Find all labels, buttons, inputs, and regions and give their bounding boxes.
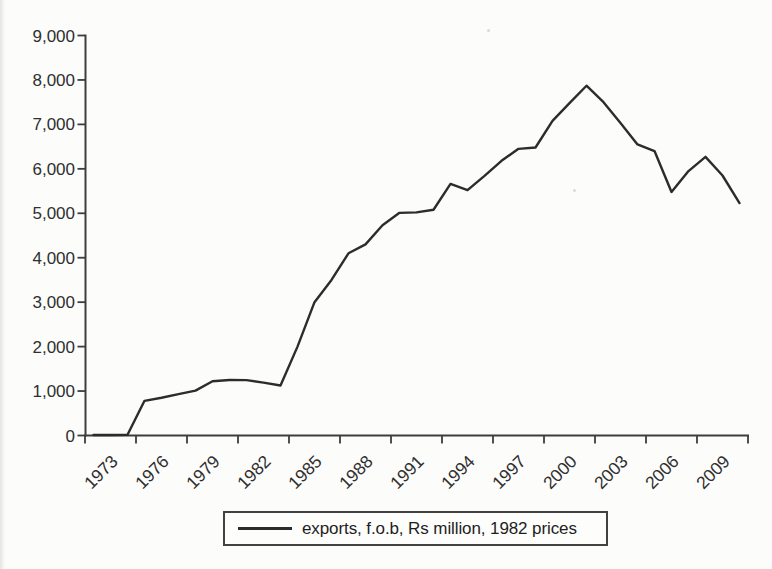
x-tick-label: 1994 [437, 451, 479, 493]
y-tick-label: 5,000 [32, 204, 75, 223]
x-tick-label: 1979 [182, 451, 224, 493]
exports-line-chart: 01,0002,0003,0004,0005,0006,0007,0008,00… [0, 0, 772, 569]
y-tick-label: 2,000 [32, 338, 75, 357]
y-tick-label: 9,000 [32, 27, 75, 46]
y-tick-label: 7,000 [32, 115, 75, 134]
x-tick-label: 1991 [386, 451, 428, 493]
x-tick-label: 1976 [131, 451, 173, 493]
x-tick-label: 2003 [590, 451, 632, 493]
y-tick-label: 6,000 [32, 160, 75, 179]
chart-canvas: 01,0002,0003,0004,0005,0006,0007,0008,00… [0, 0, 772, 569]
scanned-chart-page: 01,0002,0003,0004,0005,0006,0007,0008,00… [0, 0, 772, 569]
x-tick-label: 1973 [80, 451, 122, 493]
legend-series-label: exports, f.o.b, Rs million, 1982 prices [302, 519, 577, 539]
y-tick-label: 8,000 [32, 71, 75, 90]
chart-legend: exports, f.o.b, Rs million, 1982 prices [223, 511, 608, 546]
x-tick-label: 1982 [233, 451, 275, 493]
legend-line-sample [238, 527, 292, 530]
x-tick-label: 2000 [539, 451, 581, 493]
y-tick-label: 4,000 [32, 249, 75, 268]
x-tick-label: 1997 [488, 451, 530, 493]
x-tick-label: 1988 [335, 451, 377, 493]
y-tick-label: 1,000 [32, 382, 75, 401]
x-tick-label: 2006 [641, 451, 683, 493]
x-tick-label: 2009 [692, 451, 734, 493]
y-tick-label: 3,000 [32, 293, 75, 312]
x-tick-label: 1985 [284, 451, 326, 493]
data-line-exports [94, 86, 740, 435]
y-tick-label: 0 [66, 427, 75, 446]
